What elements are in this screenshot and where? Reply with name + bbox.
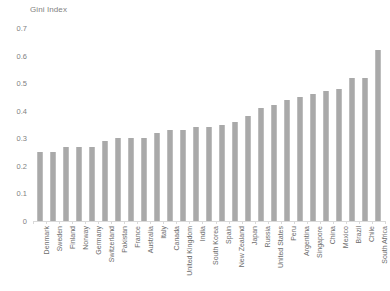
bar[interactable] [245,116,251,221]
x-axis-tick [385,221,386,224]
x-axis-category-label: Australia [147,226,154,253]
bar[interactable] [310,94,316,221]
bar-slot [320,28,333,221]
x-axis-category-label: Peru [290,226,297,241]
plot-area [33,28,385,221]
x-axis-category-label: Mexico [342,226,349,248]
x-axis-tick [163,221,164,224]
x-axis-category-label: Finland [69,226,76,249]
bar-slot [46,28,59,221]
x-axis-category-label: Brazil [355,226,362,244]
x-axis-category-label: Canada [173,226,180,251]
bar-slot [33,28,46,221]
x-axis-tick [242,221,243,224]
bar-slot [346,28,359,221]
bar[interactable] [89,147,95,221]
bar[interactable] [180,130,186,221]
bar[interactable] [102,141,108,221]
bar-slot [294,28,307,221]
x-axis-category-label: China [329,226,336,244]
y-axis-tick-label: 0.3 [17,134,27,143]
bar-slot [268,28,281,221]
x-axis-category-label: South Africa [381,226,388,264]
y-axis-tick-label: 0.4 [17,106,27,115]
bar[interactable] [76,147,82,221]
bar[interactable] [141,138,147,221]
x-axis-category-label: Russia [264,226,271,247]
bar-slot [281,28,294,221]
x-axis-category-label: Chile [368,226,375,242]
bar[interactable] [63,147,69,221]
x-axis-tick [268,221,269,224]
bar-slot [229,28,242,221]
bar[interactable] [336,89,342,221]
x-axis-tick [307,221,308,224]
bar[interactable] [362,78,368,221]
x-axis-tick [59,221,60,224]
bar[interactable] [219,125,225,222]
y-axis-tick-label: 0.5 [17,79,27,88]
bar[interactable] [349,78,355,221]
x-axis-category-label: Switzerland [108,226,115,262]
bar[interactable] [323,91,329,221]
x-axis-category-label: South Korea [212,226,219,265]
x-axis-tick [333,221,334,224]
x-axis-tick [229,221,230,224]
bar[interactable] [258,108,264,221]
x-axis-tick [255,221,256,224]
x-axis-category-label: Singapore [316,226,323,258]
y-axis-tick-label: 0.6 [17,51,27,60]
x-axis-tick [202,221,203,224]
bar[interactable] [37,152,43,221]
x-axis-tick [111,221,112,224]
bar-slot [359,28,372,221]
bar-slot [137,28,150,221]
bar-slot [72,28,85,221]
bar[interactable] [375,50,381,221]
bar-slot [372,28,385,221]
bar-slot [98,28,111,221]
x-axis-category-label: Germany [95,226,102,255]
bar-slot [242,28,255,221]
x-axis-category-label: New Zealand [238,226,245,267]
bar-slot [111,28,124,221]
gini-index-bar-chart: Gini Index 00.10.20.30.40.50.60.7 Denmar… [0,0,390,291]
bar[interactable] [284,100,290,221]
bar[interactable] [297,97,303,221]
bar[interactable] [115,138,121,221]
x-axis-tick [137,221,138,224]
x-axis-tick [294,221,295,224]
x-axis-category-label: United Kingdom [186,226,193,276]
x-axis-category-label: India [199,226,206,241]
x-axis-tick [359,221,360,224]
x-axis-tick [33,221,34,224]
bar-slot [307,28,320,221]
x-axis-tick [98,221,99,224]
bar[interactable] [271,105,277,221]
bar-slot [163,28,176,221]
x-axis-category-label: Argentina [303,226,310,256]
chart-title: Gini Index [30,5,67,14]
bar[interactable] [154,133,160,221]
x-axis-category-label: Spain [225,226,232,244]
bar-slot [333,28,346,221]
x-axis-category-label: Italy [160,226,167,239]
x-axis-category-label: Pakistan [121,226,128,253]
x-axis-category-label: Japan [251,226,258,245]
bar[interactable] [206,127,212,221]
bar[interactable] [50,152,56,221]
bar[interactable] [193,127,199,221]
x-axis-tick [346,221,347,224]
bar[interactable] [128,138,134,221]
bar-slot [150,28,163,221]
bar-slot [59,28,72,221]
x-axis-tick [189,221,190,224]
x-axis-tick [85,221,86,224]
bar-slot [176,28,189,221]
x-axis-tick [124,221,125,224]
bar[interactable] [232,122,238,221]
x-axis-tick [216,221,217,224]
bar[interactable] [167,130,173,221]
y-axis-tick-label: 0.1 [17,189,27,198]
x-axis-category-label: United States [277,226,284,268]
